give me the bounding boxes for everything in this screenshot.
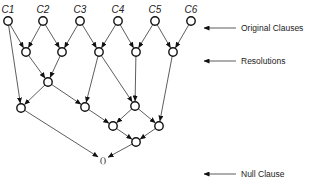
edge-r3-to-r8 [86,56,98,102]
clause-label-c4: C4 [112,4,125,15]
edge-r2-to-r6 [50,56,60,78]
legend-resolutions: Resolutions [204,56,285,66]
legend-label-null-clause: Null Clause [241,169,285,179]
clause-node-c6 [187,17,195,25]
edge-r6-to-r7 [25,85,45,105]
clause-label-c1: C1 [2,4,15,15]
clause-label-c3: C3 [74,4,87,15]
edge-r8-to-r10 [89,109,109,123]
resolution-node-r10 [109,122,117,130]
resolution-tree-diagram: C1C2C3C4C5C6 () Original Clauses Resolut… [0,0,314,187]
resolution-node-r7 [17,104,25,112]
clause-node-c2 [39,17,47,25]
null-clause-symbol: () [100,155,106,165]
resolution-node-r4 [132,48,140,56]
legend-null-clause: Null Clause [204,169,285,179]
edge-r6-to-r8 [52,84,81,104]
clause-node-c4 [114,17,122,25]
legend-group: Original Clauses Resolutions Null Clause [204,23,303,179]
edge-r9-to-r10 [117,109,132,123]
resolution-node-r11 [155,122,163,130]
edge-r7-to-null [25,110,99,157]
edge-r1-to-r6 [29,55,46,78]
clause-node-c1 [4,17,12,25]
resolution-node-r12 [132,138,140,146]
edge-c2-to-r1 [28,25,41,48]
edge-r9-to-r11 [138,109,155,123]
clause-label-c2: C2 [37,4,50,15]
clause-node-c3 [76,17,84,25]
edge-r4-to-r9 [135,56,136,101]
clause-label-c5: C5 [149,4,162,15]
resolution-node-r1 [22,48,30,56]
edge-c1-to-r7 [9,25,21,103]
edge-c4-to-r4 [120,25,133,48]
edge-c2-to-r2 [45,25,59,48]
resolution-node-r3 [95,48,103,56]
edge-c6-to-r5 [176,25,189,48]
legend-original-clauses: Original Clauses [204,23,303,33]
edge-c3-to-r2 [65,25,78,48]
edge-r5-to-r11 [160,56,172,121]
edge-c3-to-r3 [82,25,96,48]
nodes-group [4,17,195,146]
resolution-node-r8 [81,103,89,111]
clause-labels-group: C1C2C3C4C5C6 [2,4,198,15]
edge-r3-to-r9 [101,56,132,102]
resolution-node-r2 [58,48,66,56]
edge-c5-to-r4 [139,25,153,48]
legend-label-original-clauses: Original Clauses [241,23,303,33]
legend-label-resolutions: Resolutions [241,56,285,66]
clause-label-c6: C6 [185,4,198,15]
resolution-node-r6 [44,78,52,86]
edge-c4-to-r3 [102,25,116,48]
edge-r11-to-r12 [140,128,156,139]
edge-c5-to-r5 [157,25,170,48]
edges-group [9,25,189,158]
clause-node-c5 [151,17,159,25]
resolution-node-r9 [131,102,139,110]
null-clause: () [100,155,106,165]
edge-r10-to-r12 [116,128,131,139]
edge-r12-to-null [108,144,132,157]
resolution-node-r5 [169,48,177,56]
edge-c1-to-r1 [10,25,23,48]
